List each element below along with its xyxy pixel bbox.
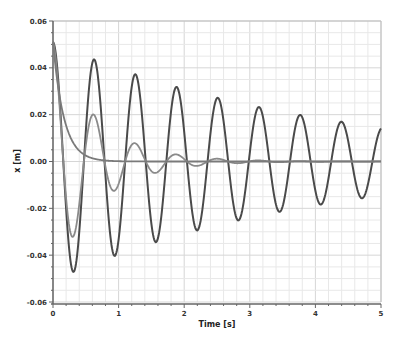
y-tick-label: -0.04 xyxy=(27,252,47,260)
x-tick-label: 1 xyxy=(116,310,121,318)
y-tick-label: 0.04 xyxy=(30,64,47,72)
y-tick-label: -0.06 xyxy=(27,299,47,307)
x-tick-label: 4 xyxy=(313,310,318,318)
y-tick-label: 0.06 xyxy=(30,18,47,26)
x-tick-label: 0 xyxy=(51,310,56,318)
y-tick-label: -0.02 xyxy=(27,205,47,213)
x-tick-label: 2 xyxy=(182,310,187,318)
line-chart: 012345-0.06-0.04-0.020.000.020.040.06 Ti… xyxy=(0,0,399,341)
y-tick-label: 0.00 xyxy=(30,158,47,166)
x-tick-label: 3 xyxy=(247,310,252,318)
y-tick-label: 0.02 xyxy=(30,111,47,119)
x-axis-label: Time [s] xyxy=(199,320,236,329)
x-tick-label: 5 xyxy=(379,310,384,318)
y-axis-label: x [m] xyxy=(13,149,22,173)
